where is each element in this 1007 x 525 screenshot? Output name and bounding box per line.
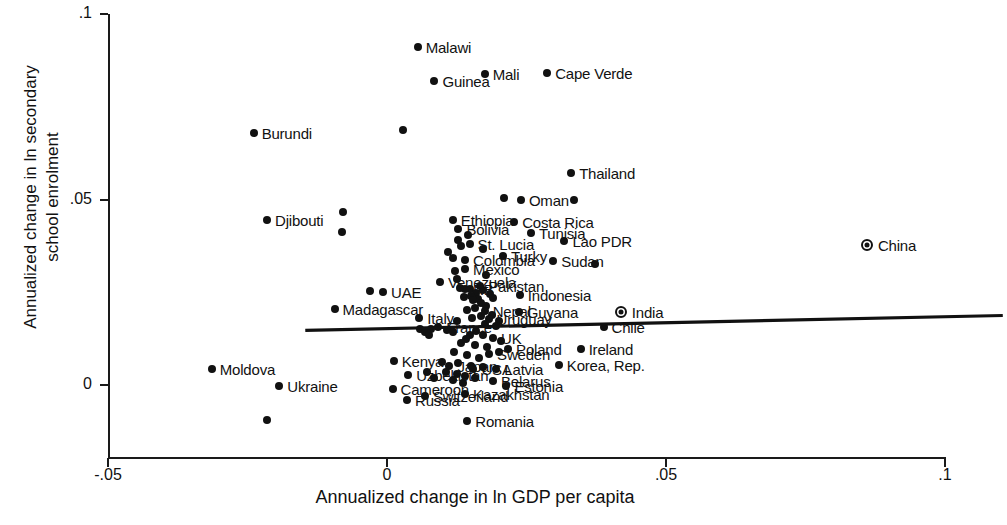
data-point-italy <box>415 314 423 322</box>
data-point <box>460 293 468 301</box>
data-point-burundi <box>250 129 258 137</box>
point-label-burundi: Burundi <box>262 125 312 142</box>
data-point-colombia <box>461 256 469 264</box>
y-tick <box>100 199 108 201</box>
point-label-indonesia: Indonesia <box>528 286 591 303</box>
data-point-uzbekistan <box>404 371 412 379</box>
point-label-thailand: Thailand <box>579 164 635 181</box>
data-point <box>497 337 505 345</box>
point-label-malawi: Malawi <box>426 39 471 56</box>
point-label-romania: Romania <box>475 413 534 430</box>
data-point-rb <box>461 285 469 293</box>
data-point-lao-pdr <box>560 237 568 245</box>
data-point <box>464 231 472 239</box>
y-tick-label: 0 <box>0 375 92 393</box>
point-label-russia: Russia <box>415 391 460 408</box>
x-tick-label: 0 <box>383 466 392 484</box>
data-point-uae <box>379 288 387 296</box>
point-label-cape-verde: Cape Verde <box>555 65 632 82</box>
point-label-ireland: Ireland <box>589 341 633 358</box>
x-tick <box>107 458 109 467</box>
data-point <box>457 242 465 250</box>
data-point <box>366 287 374 295</box>
data-point-st-lucia <box>466 240 474 248</box>
point-label-ukraine: Ukraine <box>287 378 337 395</box>
point-label-india: India <box>632 303 664 320</box>
x-axis-line <box>108 457 946 459</box>
data-point-ethiopia <box>449 216 457 224</box>
data-point <box>449 254 457 262</box>
data-point-djibouti <box>263 216 271 224</box>
x-tick-label: .1 <box>938 466 951 484</box>
data-point-korea-rep <box>555 361 563 369</box>
data-point-russia <box>403 396 411 404</box>
data-point-sudan <box>549 257 557 265</box>
data-point <box>489 294 497 302</box>
data-point-belarus <box>489 377 497 385</box>
data-point <box>338 228 346 236</box>
data-point-uk <box>489 334 497 342</box>
data-point <box>591 260 599 268</box>
point-label-madagascar: Madagascar <box>343 301 424 318</box>
regression-line <box>108 14 1007 525</box>
x-tick-label: -.05 <box>94 466 122 484</box>
x-tick <box>665 458 667 467</box>
point-label-chile: Chile <box>612 319 645 336</box>
data-point-chile <box>600 323 608 331</box>
data-point-thailand <box>567 169 575 177</box>
data-point-ireland <box>577 345 585 353</box>
data-point <box>339 208 347 216</box>
point-label-djibouti: Djibouti <box>275 211 323 228</box>
data-point-india <box>615 306 627 318</box>
y-tick-label: .1 <box>0 4 92 22</box>
data-point-kenya <box>390 357 398 365</box>
data-point-france <box>434 323 442 331</box>
data-point <box>450 348 458 356</box>
data-point-bolivia <box>454 225 462 233</box>
data-point-mexico <box>461 265 469 273</box>
y-axis-line <box>108 14 110 458</box>
data-point <box>492 322 500 330</box>
data-point-nepal <box>481 307 489 315</box>
data-point-mali <box>481 70 489 78</box>
data-point-ukraine <box>275 382 283 390</box>
x-axis-title: Annualized change in ln GDP per capita <box>0 487 950 508</box>
point-label-france: France <box>446 319 492 336</box>
data-point-venezuela <box>436 278 444 286</box>
data-point-oman <box>517 196 525 204</box>
point-label-oman: Oman <box>529 192 569 209</box>
data-point-romania <box>463 417 471 425</box>
data-point-indonesia <box>516 291 524 299</box>
x-tick <box>386 458 388 467</box>
y-tick-label: .05 <box>0 190 92 208</box>
x-tick-label: .05 <box>655 466 677 484</box>
data-point <box>263 416 271 424</box>
data-point <box>477 299 485 307</box>
y-tick <box>100 384 108 386</box>
data-point-cape-verde <box>543 69 551 77</box>
plot-area: MalawiGuineaMaliCape VerdeBurundiThailan… <box>108 14 945 458</box>
data-point-madagascar <box>331 305 339 313</box>
data-point-latvia <box>492 365 500 373</box>
data-point <box>471 341 479 349</box>
data-point <box>463 306 471 314</box>
y-tick <box>100 13 108 15</box>
point-label-uruguay: Uruguay <box>497 310 552 327</box>
data-point-guinea <box>430 77 438 85</box>
point-label-mali: Mali <box>493 66 520 83</box>
point-label-china: China <box>878 236 916 253</box>
data-point-moldova <box>208 365 216 373</box>
data-point <box>462 335 470 343</box>
data-point-costa-rica <box>510 218 518 226</box>
data-point <box>399 126 407 134</box>
point-label-uae: UAE <box>391 284 421 301</box>
data-point <box>570 196 578 204</box>
data-point-malawi <box>414 43 422 51</box>
data-point <box>427 325 435 333</box>
point-label-korea-rep: Korea, Rep. <box>567 356 645 373</box>
data-point <box>500 194 508 202</box>
data-point-cameroon <box>389 385 397 393</box>
point-label-moldova: Moldova <box>220 360 275 377</box>
x-tick <box>944 458 946 467</box>
